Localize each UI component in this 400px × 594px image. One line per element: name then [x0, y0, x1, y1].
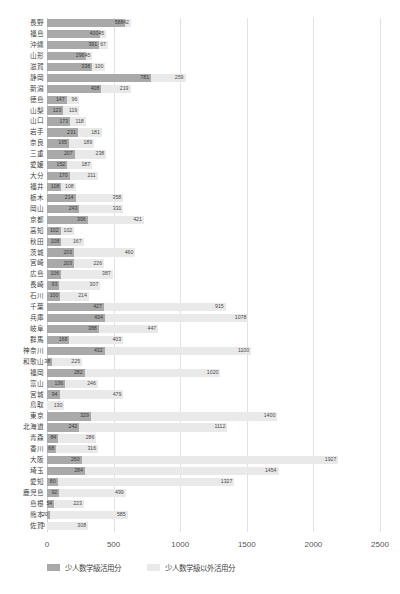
- bar-row[interactable]: 石川100214: [47, 291, 380, 302]
- bar-row[interactable]: 千葉427915: [47, 302, 380, 313]
- bar-segment-series-1[interactable]: 96: [67, 96, 80, 104]
- bar-segment-series-0[interactable]: 100: [47, 292, 60, 300]
- bar-row[interactable]: 富山136246: [47, 378, 380, 389]
- bar-segment-series-1[interactable]: 915: [104, 303, 226, 311]
- bar-row[interactable]: 山口173118: [47, 116, 380, 127]
- bar-segment-series-0[interactable]: 434: [47, 314, 105, 322]
- bar-row[interactable]: 北海道2421112: [47, 422, 380, 433]
- bar-segment-series-0[interactable]: 408: [47, 85, 101, 93]
- bar-segment-series-0[interactable]: 781: [47, 74, 151, 82]
- bar-segment-series-1[interactable]: 403: [69, 336, 123, 344]
- bar-segment-series-0[interactable]: 296: [47, 52, 86, 60]
- bar-segment-series-1[interactable]: 358: [76, 194, 124, 202]
- bar-segment-series-1[interactable]: 1327: [58, 478, 235, 486]
- legend-item[interactable]: 少人数学級以外活用分: [147, 562, 235, 573]
- bar-segment-series-0[interactable]: 84: [47, 434, 58, 442]
- bar-segment-series-1[interactable]: 226: [74, 259, 104, 267]
- bar-segment-series-0[interactable]: 54: [47, 500, 54, 508]
- bar-segment-series-0[interactable]: 102: [47, 227, 61, 235]
- bar-segment-series-1[interactable]: 45: [86, 52, 92, 60]
- bar-segment-series-1[interactable]: 246: [65, 380, 98, 388]
- bar-segment-series-0[interactable]: 588: [47, 19, 125, 27]
- bar-row[interactable]: 茨城203460: [47, 247, 380, 258]
- bar-segment-series-0[interactable]: 108: [47, 183, 61, 191]
- bar-row[interactable]: 沖縄39167: [47, 40, 380, 51]
- bar-row[interactable]: 宮城94479: [47, 389, 380, 400]
- bar-segment-series-1[interactable]: 421: [88, 216, 144, 224]
- bar-segment-series-0[interactable]: 168: [47, 336, 69, 344]
- bar-row[interactable]: 大分170211: [47, 171, 380, 182]
- bar-row[interactable]: 栃木214358: [47, 193, 380, 204]
- bar-segment-series-0[interactable]: 136: [47, 380, 65, 388]
- bar-segment-series-1[interactable]: 214: [60, 292, 89, 300]
- bar-row[interactable]: 山形29645: [47, 51, 380, 62]
- bar-segment-series-0[interactable]: 207: [47, 150, 75, 158]
- bar-segment-series-0[interactable]: 108: [47, 238, 61, 246]
- bar-row[interactable]: 東京3291400: [47, 411, 380, 422]
- bar-segment-series-0[interactable]: 306: [47, 216, 88, 224]
- bar-segment-series-1[interactable]: 307: [59, 281, 100, 289]
- bar-segment-series-1[interactable]: 119: [63, 106, 79, 114]
- bar-row[interactable]: 福井108108: [47, 182, 380, 193]
- bar-segment-series-0[interactable]: 165: [47, 139, 69, 147]
- bar-row[interactable]: 岩手231181: [47, 127, 380, 138]
- bar-row[interactable]: 秋田108167: [47, 236, 380, 247]
- bar-segment-series-1[interactable]: 387: [61, 270, 113, 278]
- bar-segment-series-1[interactable]: 1112: [79, 423, 227, 431]
- bar-segment-series-1[interactable]: 45: [100, 30, 106, 38]
- bar-row[interactable]: 青森84286: [47, 433, 380, 444]
- bar-row[interactable]: 香川68316: [47, 444, 380, 455]
- bar-row[interactable]: 滋賀338100: [47, 62, 380, 73]
- bar-segment-series-1[interactable]: 102: [61, 227, 75, 235]
- bar-segment-series-1[interactable]: 499: [59, 489, 125, 497]
- bar-segment-series-0[interactable]: 93: [47, 281, 59, 289]
- bar-segment-series-1[interactable]: 316: [56, 445, 98, 453]
- bar-segment-series-0[interactable]: 391: [47, 41, 99, 49]
- bar-row[interactable]: 宮崎203226: [47, 258, 380, 269]
- bar-row[interactable]: 長野58842: [47, 18, 380, 29]
- bar-segment-series-0[interactable]: 94: [47, 390, 60, 398]
- bar-segment-series-0[interactable]: 260: [47, 456, 82, 464]
- bar-segment-series-1[interactable]: 225: [52, 358, 82, 366]
- bar-segment-series-1[interactable]: 1078: [105, 314, 249, 322]
- bar-row[interactable]: 新潟408219: [47, 84, 380, 95]
- bar-row[interactable]: 奈良165189: [47, 138, 380, 149]
- bar-segment-series-0[interactable]: 338: [47, 63, 92, 71]
- legend-item[interactable]: 少人数学級活用分: [47, 562, 121, 573]
- bar-segment-series-0[interactable]: 242: [47, 423, 79, 431]
- bar-row[interactable]: 熊本20585: [47, 509, 380, 520]
- bar-segment-series-1[interactable]: 211: [70, 172, 98, 180]
- bar-row[interactable]: 鹿児島92499: [47, 488, 380, 499]
- bar-segment-series-0[interactable]: 106: [47, 270, 61, 278]
- bar-segment-series-1[interactable]: 238: [75, 150, 107, 158]
- bar-row[interactable]: 福岡2821020: [47, 368, 380, 379]
- bar-segment-series-1[interactable]: 42: [125, 19, 131, 27]
- bar-segment-series-1[interactable]: 1454: [85, 467, 279, 475]
- bar-segment-series-1[interactable]: 67: [99, 41, 108, 49]
- bar-segment-series-0[interactable]: 147: [47, 96, 67, 104]
- bar-segment-series-0[interactable]: 173: [47, 117, 70, 125]
- bar-segment-series-1[interactable]: 286: [58, 434, 96, 442]
- bar-segment-series-0[interactable]: 432: [47, 347, 105, 355]
- bar-segment-series-1[interactable]: 1020: [85, 369, 221, 377]
- bar-row[interactable]: 埼玉2841454: [47, 466, 380, 477]
- bar-row[interactable]: 高知102102: [47, 226, 380, 237]
- bar-row[interactable]: 兵庫4341078: [47, 313, 380, 324]
- bar-segment-series-0[interactable]: 231: [47, 128, 78, 136]
- bar-segment-series-0[interactable]: 92: [47, 489, 59, 497]
- bar-segment-series-1[interactable]: 100: [92, 63, 105, 71]
- bar-row[interactable]: 和歌山38225: [47, 357, 380, 368]
- bar-segment-series-0[interactable]: 152: [47, 161, 67, 169]
- bar-row[interactable]: 広島106387: [47, 269, 380, 280]
- bar-row[interactable]: 福島40045: [47, 29, 380, 40]
- bar-row[interactable]: 愛知801327: [47, 477, 380, 488]
- bar-segment-series-1[interactable]: 1927: [82, 456, 339, 464]
- bar-segment-series-0[interactable]: 243: [47, 205, 79, 213]
- bar-segment-series-0[interactable]: 284: [47, 467, 85, 475]
- bar-row[interactable]: 大阪2601927: [47, 455, 380, 466]
- bar-segment-series-1[interactable]: 259: [151, 74, 185, 82]
- bar-row[interactable]: 長崎93307: [47, 280, 380, 291]
- bar-row[interactable]: 島根54223: [47, 499, 380, 510]
- bar-segment-series-1[interactable]: 189: [69, 139, 94, 147]
- bar-segment-series-1[interactable]: 130: [47, 401, 64, 409]
